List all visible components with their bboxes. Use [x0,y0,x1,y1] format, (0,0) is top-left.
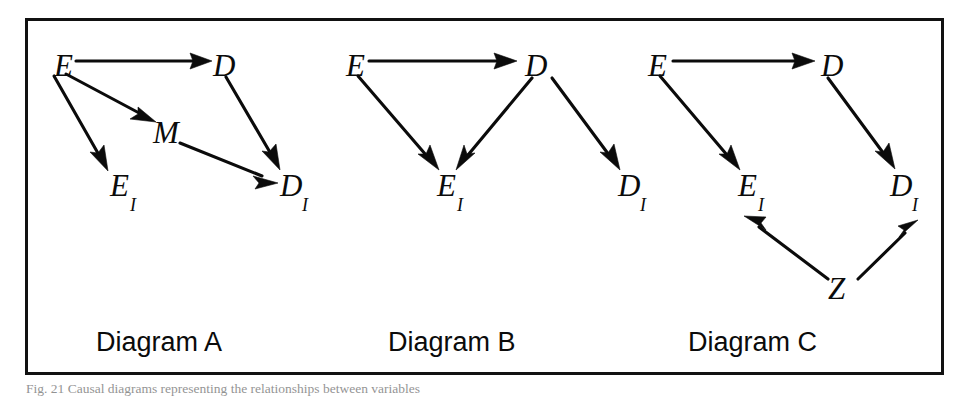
figure-caption: Fig. 21 Causal diagrams representing the… [26,381,956,396]
node-c-z: Z [828,271,846,306]
node-label-e: E [647,48,667,83]
edge-a-e-to-d [76,53,212,69]
node-label-ei: E [737,168,757,203]
panel-caption-a: Diagram A [96,327,222,357]
panel-caption-b: Diagram B [388,327,516,357]
node-label-d: D [212,48,235,83]
node-subscript-di: I [301,195,309,215]
diagram-b-group: E D E I D I Diagram B [345,48,647,357]
node-c-e: E [647,48,667,83]
node-label-e: E [345,48,365,83]
edge-b-e-to-d [369,53,517,69]
edge-c-e-to-ei [660,76,740,170]
node-subscript-ei: I [757,195,765,215]
node-a-d: D [212,48,235,83]
edge-b-d-to-ei [456,78,532,170]
edge-b-d-to-di [552,78,620,170]
diagram-panel: E D M E I D I Diagram A [25,18,944,375]
node-subscript-ei: I [129,195,137,215]
edge-a-m-to-di [180,143,278,189]
node-label-di: D [889,168,912,203]
node-label-di: D [617,168,640,203]
node-b-di: D I [617,168,647,215]
edge-b-e-to-ei [358,76,439,170]
edge-a-d-to-di [226,77,280,170]
edge-a-e-to-m [66,74,156,122]
node-label-ei: E [109,168,129,203]
node-a-e: E [53,48,73,83]
node-label-z: Z [828,271,846,306]
edge-c-e-to-d [673,53,815,69]
diagram-a-group: E D M E I D I Diagram A [53,48,309,357]
node-label-d: D [524,48,547,83]
node-label-ei: E [436,168,456,203]
panel-caption-c: Diagram C [688,327,817,357]
node-label-e: E [53,48,73,83]
node-b-e: E [345,48,365,83]
edge-a-e-to-ei [54,76,108,171]
node-a-m: M [152,115,181,150]
node-a-di: D I [279,168,309,215]
node-a-ei: E I [109,168,137,215]
node-subscript-ei: I [456,195,464,215]
node-b-d: D [524,48,547,83]
node-b-ei: E I [436,168,464,215]
node-label-d: D [820,48,843,83]
node-c-ei: E I [737,168,765,215]
edge-c-z-to-ei [744,216,828,279]
node-c-di: D I [889,168,919,215]
edge-c-d-to-di [828,78,895,169]
edge-c-z-to-di [858,220,918,279]
figure-root: E D M E I D I Diagram A [0,0,964,398]
node-label-m: M [152,115,181,150]
node-c-d: D [820,48,843,83]
diagram-canvas: E D M E I D I Diagram A [28,21,947,378]
diagram-c-group: E D E I D I Z Diagram C [647,48,919,357]
node-label-di: D [279,168,302,203]
node-subscript-di: I [639,195,647,215]
node-subscript-di: I [911,195,919,215]
